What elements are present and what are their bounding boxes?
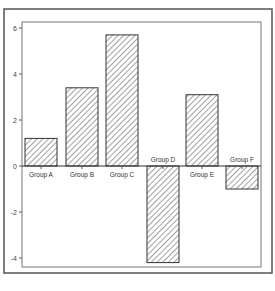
bar-chart: -4-20246 Group AGroup BGroup CGroup DGro… <box>0 0 275 291</box>
y-tick-label: 2 <box>13 117 17 124</box>
x-axis-labels: Group AGroup BGroup CGroup DGroup EGroup… <box>29 156 254 179</box>
x-category-label: Group C <box>110 171 135 179</box>
plot-frame <box>22 22 261 267</box>
x-category-label: Group A <box>29 171 54 179</box>
y-tick-label: 0 <box>13 163 17 170</box>
bar-group-d <box>147 166 179 263</box>
y-tick-label: 6 <box>13 25 17 32</box>
y-tick-label: -2 <box>11 209 17 216</box>
bar-group-f <box>226 166 258 189</box>
x-category-label: Group D <box>151 156 176 164</box>
bar-group-a <box>25 138 57 166</box>
bar-group-e <box>186 95 218 166</box>
bar-group-b <box>66 88 98 166</box>
y-tick-label: 4 <box>13 71 17 78</box>
x-category-label: Group F <box>230 156 254 164</box>
y-axis: -4-20246 <box>11 25 22 262</box>
y-tick-label: -4 <box>11 255 17 262</box>
bar-group-c <box>106 35 138 166</box>
x-category-label: Group E <box>190 171 215 179</box>
x-category-label: Group B <box>70 171 94 179</box>
bars <box>25 35 258 263</box>
